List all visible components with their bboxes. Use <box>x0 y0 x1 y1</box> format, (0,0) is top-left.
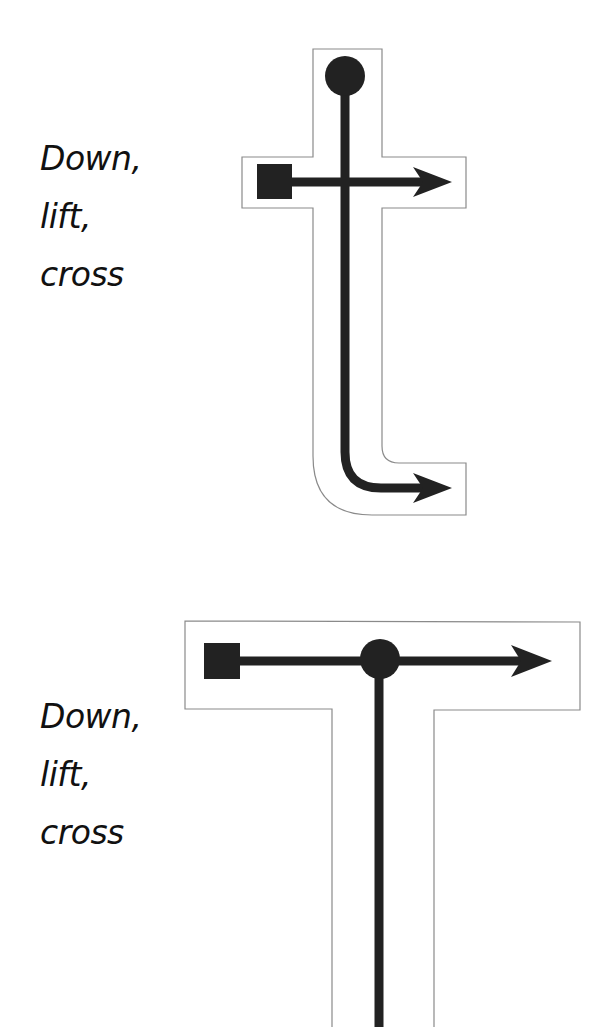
start-circle-icon <box>360 639 400 679</box>
lowercase-t-outline <box>242 49 466 515</box>
letter-stroke-diagrams <box>0 0 614 1027</box>
start-circle-icon <box>325 56 365 96</box>
uppercase-t-diagram <box>185 621 580 1027</box>
stroke-1-path <box>345 80 430 488</box>
start-square-icon <box>257 164 292 199</box>
lowercase-t-diagram <box>242 49 466 515</box>
start-square-icon <box>204 643 240 679</box>
